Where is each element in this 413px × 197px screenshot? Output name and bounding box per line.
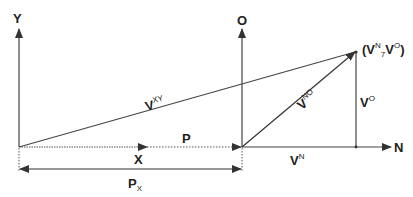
point-dot [354, 50, 357, 53]
vo-label: VO [360, 95, 375, 109]
n-axis-label: N [394, 141, 403, 154]
point-label: (VN7VO) [362, 42, 405, 59]
x-label: X [134, 153, 143, 166]
vn-label: VN [290, 153, 304, 167]
px-label: PX [128, 177, 142, 193]
n-dot [355, 146, 358, 149]
p-label: P [182, 132, 191, 145]
o-axis-label: O [237, 14, 247, 27]
vector-diagram [0, 0, 413, 197]
y-axis-label: Y [13, 12, 22, 25]
